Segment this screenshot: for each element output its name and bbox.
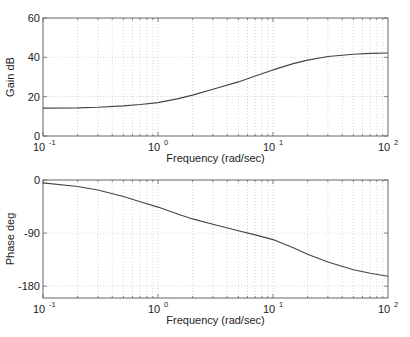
bode-plot-canvas: 10-11001011020204060Frequency (rad/sec)G… [0, 0, 410, 337]
x-tick-exponent: 1 [279, 138, 283, 147]
y-tick-label: 0 [34, 174, 40, 186]
y-tick-label: 40 [28, 51, 40, 63]
x-tick-exponent: 1 [279, 300, 283, 309]
x-tick-exponent: -1 [49, 300, 56, 309]
x-axis-label: Frequency (rad/sec) [166, 314, 264, 326]
y-axis-label: Phase deg [4, 213, 16, 266]
y-tick-label: 20 [28, 91, 40, 103]
bode-figure: 10-11001011020204060Frequency (rad/sec)G… [0, 0, 410, 337]
y-tick-label: -180 [18, 280, 40, 292]
axes-frame [43, 18, 388, 136]
x-tick-label: 10 [378, 303, 390, 315]
x-tick-label: 10 [33, 303, 45, 315]
y-tick-label: 60 [28, 12, 40, 24]
phase-axes: 10-11001011020-90-180Frequency (rad/sec)… [4, 174, 398, 326]
x-tick-label: 10 [33, 141, 45, 153]
x-tick-exponent: 0 [164, 300, 168, 309]
phase-curve [43, 183, 388, 276]
axes-frame [43, 180, 388, 298]
y-axis-label: Gain dB [4, 57, 16, 97]
x-tick-label: 10 [148, 303, 160, 315]
x-tick-exponent: 2 [394, 138, 398, 147]
gain-axes: 10-11001011020204060Frequency (rad/sec)G… [4, 12, 398, 164]
x-tick-exponent: 0 [164, 138, 168, 147]
gain-curve [43, 53, 388, 108]
x-tick-exponent: -1 [49, 138, 56, 147]
x-axis-label: Frequency (rad/sec) [166, 152, 264, 164]
x-tick-label: 10 [148, 141, 160, 153]
x-tick-label: 10 [378, 141, 390, 153]
y-tick-label: 0 [34, 130, 40, 142]
y-tick-label: -90 [24, 227, 40, 239]
x-tick-exponent: 2 [394, 300, 398, 309]
